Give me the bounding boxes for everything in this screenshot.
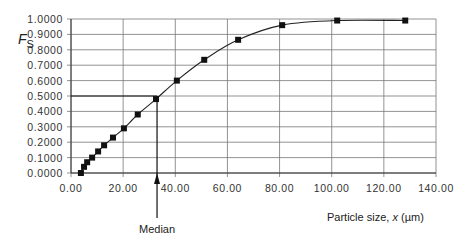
y-tick-label: 0.6000 <box>27 75 63 87</box>
cumulative-distribution-chart: 0.00000.10000.20000.30000.40000.50000.60… <box>0 0 469 243</box>
median-annotation <box>71 96 160 218</box>
x-tick-label: 140.00 <box>418 182 454 194</box>
square-marker-icon <box>235 37 241 43</box>
y-tick-label: 0.7000 <box>27 59 63 71</box>
x-axis-label: Particle size, x (µm) <box>327 211 424 223</box>
square-marker-icon <box>153 96 159 102</box>
x-tick-label: 0.00 <box>60 182 83 194</box>
x-tick-labels: 0.0020.0040.0060.0080.00100.00120.00140.… <box>60 182 454 194</box>
x-tick-label: 40.00 <box>161 182 190 194</box>
median-label: Median <box>139 223 175 235</box>
y-tick-label: 0.4000 <box>27 105 63 117</box>
square-marker-icon <box>279 22 285 28</box>
median-arrowhead-icon <box>154 173 160 184</box>
square-marker-icon <box>95 148 101 154</box>
square-marker-icon <box>89 155 95 161</box>
grid-lines <box>67 19 436 177</box>
y-axis-label-sub: S <box>27 38 34 50</box>
square-marker-icon <box>101 142 107 148</box>
y-tick-label: 0.3000 <box>27 121 63 133</box>
x-tick-label: 120.00 <box>366 182 402 194</box>
x-tick-label: 80.00 <box>265 182 294 194</box>
y-tick-label: 0.5000 <box>27 90 63 102</box>
square-marker-icon <box>334 18 340 24</box>
x-tick-label: 20.00 <box>109 182 138 194</box>
square-marker-icon <box>121 125 127 131</box>
data-series <box>78 18 408 176</box>
square-marker-icon <box>110 135 116 141</box>
y-tick-label: 0.0000 <box>27 167 63 179</box>
square-marker-icon <box>78 170 84 176</box>
y-tick-label: 1.0000 <box>27 13 63 25</box>
y-tick-label: 0.1000 <box>27 152 63 164</box>
square-marker-icon <box>174 78 180 84</box>
square-marker-icon <box>135 111 141 117</box>
x-tick-label: 60.00 <box>213 182 242 194</box>
square-marker-icon <box>402 18 408 24</box>
y-tick-label: 0.2000 <box>27 136 63 148</box>
square-marker-icon <box>201 57 207 63</box>
x-tick-label: 100.00 <box>314 182 350 194</box>
